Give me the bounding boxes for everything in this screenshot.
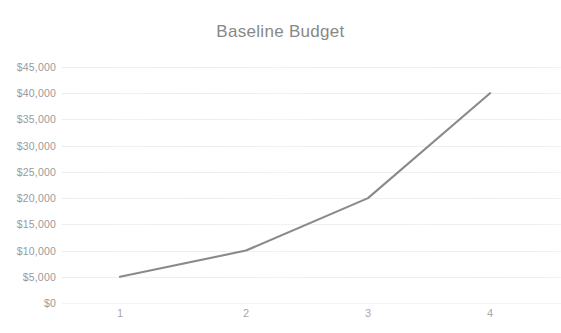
gridline-texture	[62, 251, 558, 252]
chart-container: Baseline Budget $45,000$40,000$35,000$30…	[0, 0, 561, 333]
gridline-texture	[62, 146, 558, 147]
gridline-texture	[62, 93, 558, 94]
gridline-texture	[62, 172, 558, 173]
x-axis-tick-label: 1	[117, 307, 123, 319]
x-axis-tick-label: 4	[487, 307, 493, 319]
gridline-texture	[62, 198, 558, 199]
x-axis-tick-label: 2	[243, 307, 249, 319]
x-axis: 1234	[0, 0, 561, 333]
x-axis-tick-label: 3	[365, 307, 371, 319]
gridline-texture	[62, 119, 558, 120]
gridline-texture	[62, 224, 558, 225]
gridline-texture	[62, 277, 558, 278]
gridline-texture	[62, 67, 558, 68]
